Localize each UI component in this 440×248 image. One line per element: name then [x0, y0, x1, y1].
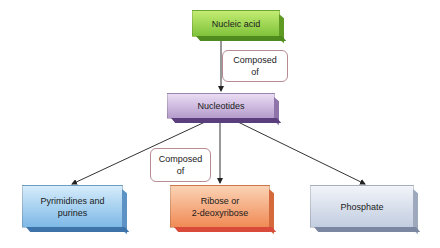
node-label: Nucleic acid: [212, 18, 261, 30]
node-nucleotides: Nucleotides: [167, 93, 275, 119]
box-bottom: [26, 227, 129, 232]
node-label-line1: Pyrimidines and: [40, 195, 104, 207]
edge-label-line2: of: [233, 66, 277, 78]
node-label-line2: 2-deoxyribose: [192, 207, 249, 219]
edge-label-line1: Composed: [159, 153, 203, 165]
edge-label-composed-of-top: Composed of: [222, 50, 288, 82]
box-bottom: [196, 36, 286, 41]
box-bottom: [171, 118, 281, 123]
box-bottom: [174, 227, 276, 232]
node-nucleic-acid: Nucleic acid: [192, 10, 280, 37]
edge-label-line1: Composed: [233, 54, 277, 66]
node-label-line1: Ribose or: [192, 195, 249, 207]
node-label-line2: purines: [40, 207, 104, 219]
edge-label-composed-of-bottom: Composed of: [150, 148, 211, 182]
node-label: Nucleotides: [197, 100, 244, 112]
edge-label-line2: of: [159, 165, 203, 177]
node-phosphate: Phosphate: [310, 185, 414, 228]
node-label: Phosphate: [340, 201, 383, 213]
box-bottom: [314, 227, 420, 232]
node-ribose-or-2-deoxyribose: Ribose or 2-deoxyribose: [170, 185, 270, 228]
node-pyrimidines-and-purines: Pyrimidines and purines: [22, 185, 123, 228]
